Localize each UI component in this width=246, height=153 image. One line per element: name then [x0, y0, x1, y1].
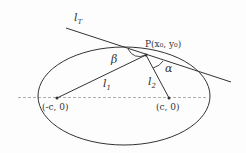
l1-label: l1: [103, 78, 111, 92]
focus-left: [56, 97, 59, 100]
tangent-label: lT: [74, 12, 82, 26]
l2-label: l2: [148, 76, 156, 90]
diagram-canvas: [0, 0, 246, 153]
focus-left-label: (-c, 0): [42, 103, 69, 112]
focus-right-label: (c, 0): [156, 103, 180, 112]
focus-right: [168, 97, 171, 100]
beta-label: β: [111, 54, 117, 65]
point-label: P(x₀, y₀): [145, 40, 181, 49]
ellipse: [38, 47, 210, 145]
tangent-line: [66, 28, 231, 82]
ellipse-diagram: lT P(x₀, y₀) β α l1 l2 (-c, 0) (c, 0): [0, 0, 246, 153]
alpha-label: α: [165, 63, 172, 74]
angle-alpha-arc: [153, 61, 163, 68]
focal-line-1: [57, 55, 146, 98]
